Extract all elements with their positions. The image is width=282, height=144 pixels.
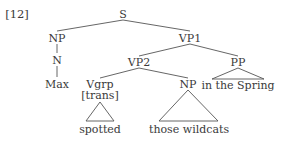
vgrp-feature: [trans] [81, 90, 119, 101]
leaf-max: Max [45, 79, 69, 90]
np-object-triangle [159, 90, 218, 121]
branch-s-vp1 [123, 20, 190, 31]
node-np-object: NP [179, 79, 196, 90]
leaf-spotted: spotted [79, 124, 121, 135]
branch-vp2-vgrp [100, 68, 139, 78]
node-s: S [119, 9, 127, 20]
example-number: [12] [5, 9, 29, 21]
node-pp: PP [231, 57, 246, 68]
leaf-np-object-text: those wildcats [149, 124, 229, 135]
node-np-subject: NP [48, 33, 65, 44]
node-n: N [52, 55, 62, 66]
node-vp2: VP2 [128, 57, 150, 68]
branch-vp2-np [139, 68, 188, 78]
pp-triangle [212, 68, 264, 79]
node-vp1: VP1 [179, 33, 201, 44]
vgrp-triangle [86, 102, 114, 121]
tree-branches [0, 0, 282, 144]
branch-s-np [57, 20, 123, 31]
branch-vp1-pp [190, 44, 238, 56]
syntax-tree-diagram: [12] S NP VP1 N VP2 PP Max Vgrp [trans] … [0, 0, 282, 144]
leaf-pp-text: in the Spring [201, 80, 274, 91]
branch-vp1-vp2 [139, 44, 190, 56]
